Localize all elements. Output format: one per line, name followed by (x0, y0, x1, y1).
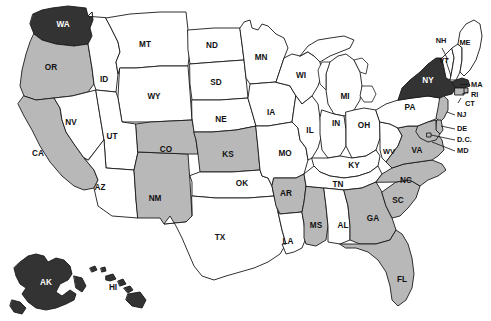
state-label-VA: VA (412, 146, 423, 155)
state-label-GA: GA (367, 214, 379, 223)
state-label-AL: AL (338, 221, 349, 230)
state-label-FL: FL (397, 275, 407, 284)
state-MS[interactable] (302, 186, 328, 246)
state-label-MI: MI (340, 92, 349, 101)
state-label-SD: SD (210, 78, 221, 87)
state-label-NV: NV (65, 118, 77, 127)
state-label-MO: MO (278, 149, 292, 158)
state-label-MS: MS (310, 221, 323, 230)
state-label-DE: DE (457, 124, 467, 133)
state-label-CO: CO (160, 145, 173, 154)
state-label-NY: NY (422, 76, 434, 85)
state-IN[interactable] (320, 110, 346, 158)
state-label-IL: IL (306, 126, 313, 135)
state-label-AK: AK (40, 278, 52, 287)
us-map-svg: WA OR CA NV ID MT WY UT AZ NM CO ND SD N… (0, 0, 491, 321)
state-label-OK: OK (236, 179, 248, 188)
state-DC[interactable] (427, 133, 431, 137)
state-label-RI: RI (471, 90, 478, 99)
state-label-ID: ID (100, 75, 108, 84)
state-label-IN: IN (332, 119, 340, 128)
state-label-NM: NM (149, 194, 162, 203)
state-label-NE: NE (215, 115, 227, 124)
state-label-NC: NC (400, 176, 412, 185)
state-label-KY: KY (348, 161, 360, 170)
state-label-MT: MT (139, 40, 151, 49)
state-label-OR: OR (45, 63, 57, 72)
state-label-WA: WA (56, 20, 69, 29)
state-label-DC: D.C. (457, 135, 472, 144)
state-label-AZ: AZ (95, 183, 106, 192)
state-label-VT: VT (439, 56, 449, 65)
state-KS[interactable] (194, 126, 260, 172)
state-label-LA: LA (283, 237, 294, 246)
state-label-NH: NH (436, 36, 447, 45)
state-label-ND: ND (206, 41, 218, 50)
state-label-HI: HI (109, 283, 117, 292)
us-map-container: WA OR CA NV ID MT WY UT AZ NM CO ND SD N… (0, 0, 491, 321)
state-label-NJ: NJ (457, 110, 466, 119)
state-label-WV: WV (383, 147, 395, 156)
state-label-AR: AR (280, 189, 292, 198)
state-label-WI: WI (296, 71, 306, 80)
state-label-KS: KS (222, 150, 234, 159)
state-label-OH: OH (358, 121, 370, 130)
state-label-CT: CT (465, 99, 475, 108)
state-label-MN: MN (255, 53, 268, 62)
state-label-PA: PA (405, 103, 416, 112)
state-label-MA: MA (471, 80, 483, 89)
state-label-ME: ME (459, 38, 470, 47)
state-label-IA: IA (267, 108, 275, 117)
state-label-SC: SC (392, 196, 403, 205)
state-label-TN: TN (333, 180, 344, 189)
state-label-CA: CA (32, 149, 44, 158)
state-NM[interactable] (134, 152, 192, 224)
state-label-WY: WY (147, 92, 161, 101)
state-IA[interactable] (248, 82, 296, 126)
state-label-MD: MD (457, 146, 469, 155)
state-label-UT: UT (107, 132, 118, 141)
state-label-TX: TX (215, 233, 226, 242)
